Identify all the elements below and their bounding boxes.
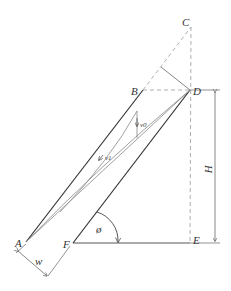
line-A-D — [26, 90, 190, 242]
v1-arrow — [99, 155, 103, 160]
label-H: H — [203, 164, 215, 174]
edge-AB — [26, 90, 143, 242]
w-tick-F — [48, 246, 70, 276]
edge-FD — [73, 90, 190, 243]
label-A: A — [14, 237, 22, 249]
label-E: E — [192, 234, 200, 246]
label-v1: v1 — [105, 154, 112, 162]
perpendicular-D — [161, 67, 190, 90]
label-D: D — [192, 85, 201, 97]
label-B: B — [131, 85, 138, 97]
label-angle: ø — [95, 223, 102, 235]
label-w: w — [35, 255, 43, 267]
w-dimension-line — [18, 251, 47, 276]
geometry-diagram: C B D A F E H w ø v0 v1 — [0, 0, 231, 291]
label-v0: v0 — [140, 121, 147, 129]
label-C: C — [182, 16, 190, 28]
dashed-CE — [190, 27, 191, 243]
label-F: F — [62, 238, 70, 250]
dashed-BC — [143, 27, 191, 90]
